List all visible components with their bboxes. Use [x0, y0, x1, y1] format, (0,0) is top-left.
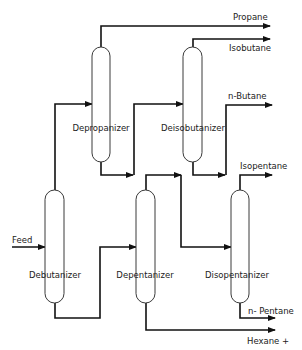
- n-butane-label: n-Butane: [228, 91, 267, 101]
- debutanizer-bottoms-pipe: [55, 247, 136, 318]
- n-pentane-label: n- Pentane: [248, 306, 294, 316]
- depentanizer-overhead-pipe-a: [146, 175, 181, 190]
- isobutane-label: Isobutane: [229, 43, 271, 53]
- depentanizer-overhead-pipe-b: [181, 175, 231, 247]
- depropanizer-bottoms-pipe-a: [101, 162, 133, 175]
- deisobutanizer-label: Deisobutanizer: [161, 123, 226, 133]
- deisobutanizer-bottoms-pipe: [193, 162, 225, 175]
- debutanizer-column: [45, 190, 64, 303]
- debutanizer-overhead-pipe: [55, 104, 92, 190]
- depentanizer-label: Depentanizer: [116, 270, 174, 280]
- depropanizer-label: Depropanizer: [72, 123, 130, 133]
- feed-label: Feed: [12, 235, 32, 245]
- deisobutanizer-column: [183, 47, 202, 162]
- disopentanizer-label: Disopentanizer: [205, 270, 270, 280]
- isopentane-pipe: [240, 175, 272, 190]
- depropanizer-column: [92, 47, 110, 162]
- debutanizer-label: Debutanizer: [29, 270, 82, 280]
- depropanizer-bottoms-pipe-b: [134, 104, 183, 175]
- depentanizer-column: [136, 190, 155, 303]
- disopentanizer-column: [231, 190, 249, 303]
- hexane-label: Hexane +: [247, 336, 289, 346]
- propane-label: Propane: [233, 12, 268, 22]
- isopentane-label: Isopentane: [240, 161, 287, 171]
- process-flow-diagram: Debutanizer Depropanizer Deisobutanizer …: [0, 0, 302, 350]
